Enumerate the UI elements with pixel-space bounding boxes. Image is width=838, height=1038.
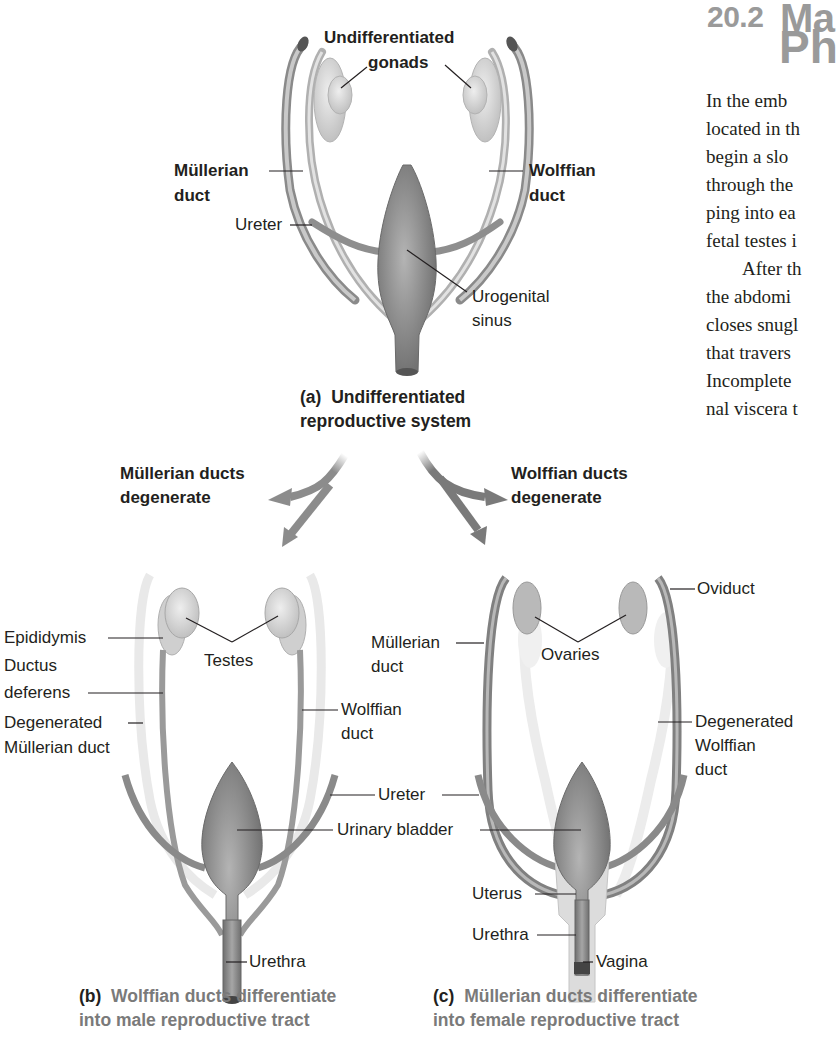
label-wolffian-degenerate-2: degenerate bbox=[511, 488, 602, 508]
body-line: fetal testes i bbox=[706, 227, 797, 255]
body-line: Incomplete bbox=[706, 367, 791, 395]
label-degenerated-wolffian-3: duct bbox=[695, 760, 727, 780]
label-degenerated-wolffian-2: Wolffian bbox=[695, 736, 756, 756]
label-wolffian-duct-b-1: Wolffian bbox=[341, 700, 402, 720]
label-urogenital-sinus-2: sinus bbox=[472, 311, 512, 331]
label-mullerian-duct-c-2: duct bbox=[371, 657, 403, 677]
caption-b-line1: Wolffian ducts differentiate bbox=[111, 986, 336, 1006]
label-epididymis: Epididymis bbox=[4, 628, 86, 648]
label-oviduct: Oviduct bbox=[697, 579, 755, 599]
label-ureter-a: Ureter bbox=[235, 215, 282, 235]
label-mullerian-duct-2: duct bbox=[174, 186, 210, 206]
body-line: begin a slo bbox=[706, 143, 788, 171]
label-mullerian-degenerate-1: Müllerian ducts bbox=[120, 464, 245, 484]
label-mullerian-duct-1: Müllerian bbox=[174, 161, 249, 181]
caption-a-line1: Undifferentiated bbox=[331, 387, 465, 407]
label-ovaries: Ovaries bbox=[541, 645, 600, 665]
label-wolffian-duct-1: Wolffian bbox=[529, 161, 596, 181]
caption-b-letter: (b) bbox=[79, 986, 101, 1006]
body-line: located in th bbox=[706, 115, 800, 143]
label-wolffian-duct-b-2: duct bbox=[341, 724, 373, 744]
label-mullerian-duct-c-1: Müllerian bbox=[371, 633, 440, 653]
label-ureter-shared: Ureter bbox=[378, 785, 425, 805]
caption-c-line2: into female reproductive tract bbox=[433, 1009, 679, 1031]
label-mullerian-degenerate-2: degenerate bbox=[120, 488, 211, 508]
label-uterus: Uterus bbox=[472, 884, 522, 904]
caption-a: (a) Undifferentiated bbox=[300, 386, 465, 408]
label-vagina: Vagina bbox=[596, 952, 648, 972]
caption-a-line2: reproductive system bbox=[300, 410, 471, 432]
body-line: that travers bbox=[706, 339, 791, 367]
body-line: After th bbox=[742, 255, 802, 283]
body-line: nal viscera t bbox=[706, 395, 798, 423]
differentiation-arrows bbox=[268, 452, 508, 547]
label-undifferentiated-gonads-1: Undifferentiated bbox=[324, 28, 454, 48]
label-degenerated-wolffian-1: Degenerated bbox=[695, 712, 793, 732]
body-line: through the bbox=[706, 171, 793, 199]
caption-c-line1: Müllerian ducts differentiate bbox=[464, 986, 697, 1006]
section-number: 20.2 bbox=[707, 0, 763, 34]
section-title-line2: Ph bbox=[779, 20, 838, 74]
label-testes: Testes bbox=[204, 651, 253, 671]
caption-c-letter: (c) bbox=[433, 986, 454, 1006]
body-line: In the emb bbox=[706, 87, 787, 115]
label-urethra-b: Urethra bbox=[249, 952, 306, 972]
caption-c: (c) Müllerian ducts differentiate bbox=[433, 985, 698, 1007]
panel-b-artwork bbox=[125, 575, 335, 1004]
caption-a-letter: (a) bbox=[300, 387, 321, 407]
caption-b-line2: into male reproductive tract bbox=[79, 1009, 309, 1031]
label-ductus-deferens-1: Ductus bbox=[4, 656, 57, 676]
label-urethra-c: Urethra bbox=[472, 925, 529, 945]
label-degenerated-mullerian-2: Müllerian duct bbox=[4, 738, 110, 758]
label-urinary-bladder: Urinary bladder bbox=[337, 820, 453, 840]
body-line: the abdomi bbox=[706, 283, 791, 311]
body-line: ping into ea bbox=[706, 199, 796, 227]
label-wolffian-duct-2: duct bbox=[529, 186, 565, 206]
label-ductus-deferens-2: deferens bbox=[4, 683, 70, 703]
label-wolffian-degenerate-1: Wolffian ducts bbox=[511, 464, 628, 484]
body-line: closes snugl bbox=[706, 311, 798, 339]
caption-b: (b) Wolffian ducts differentiate bbox=[79, 985, 336, 1007]
label-urogenital-sinus-1: Urogenital bbox=[472, 287, 550, 307]
label-undifferentiated-gonads-2: gonads bbox=[368, 53, 428, 73]
label-degenerated-mullerian-1: Degenerated bbox=[4, 713, 102, 733]
